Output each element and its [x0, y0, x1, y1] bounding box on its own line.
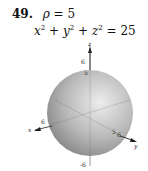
- z-tick-neg6: -6: [80, 161, 86, 168]
- x-axis-label: x: [28, 126, 32, 133]
- x-axis-arrowhead: [34, 127, 41, 131]
- y-tick-6: 6: [117, 131, 121, 138]
- z-axis-label: z: [87, 40, 92, 47]
- z-tick-5: 5: [84, 69, 88, 76]
- z-axis-arrowhead: [88, 47, 92, 53]
- z-tick-6: 6: [81, 58, 85, 65]
- sphere-figure: z 6 5 -6 x 6 y 5 6: [0, 0, 148, 171]
- x-tick-6: 6: [41, 118, 45, 125]
- y-tick-5: 5: [112, 128, 116, 135]
- y-axis-label: y: [133, 142, 138, 150]
